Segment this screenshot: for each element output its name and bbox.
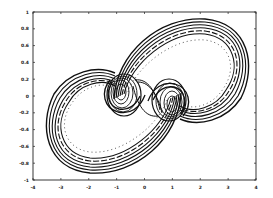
x-tick-label: -1 bbox=[114, 185, 119, 190]
x-tick-label: -2 bbox=[86, 185, 91, 190]
x-tick-label: 3 bbox=[227, 185, 230, 190]
x-tick-label: -3 bbox=[58, 185, 63, 190]
y-tick-label: 0.8 bbox=[21, 26, 29, 31]
y-tick-label: -0.8 bbox=[19, 161, 29, 166]
attractor-chart: 10.80.60.40.20-0.2-0.4-0.6-0.8-1 -4-3-2-… bbox=[0, 0, 273, 198]
x-tick-label: 2 bbox=[199, 185, 202, 190]
y-tick-label: -1 bbox=[24, 178, 29, 183]
y-tick-label: 0 bbox=[26, 94, 29, 99]
x-tick-label: 0 bbox=[143, 185, 146, 190]
y-tick-label: -0.6 bbox=[19, 144, 29, 149]
y-tick-label: 0.6 bbox=[21, 43, 29, 48]
y-tick-label: -0.4 bbox=[19, 127, 29, 132]
x-tick-label: 4 bbox=[254, 185, 257, 190]
y-tick-label: 0.2 bbox=[21, 77, 29, 82]
x-tick-label: -4 bbox=[31, 185, 36, 190]
y-tick-label: 0.4 bbox=[21, 60, 29, 65]
y-tick-label: 1 bbox=[26, 10, 29, 15]
x-tick-label: 1 bbox=[171, 185, 174, 190]
y-tick-label: -0.2 bbox=[19, 110, 29, 115]
